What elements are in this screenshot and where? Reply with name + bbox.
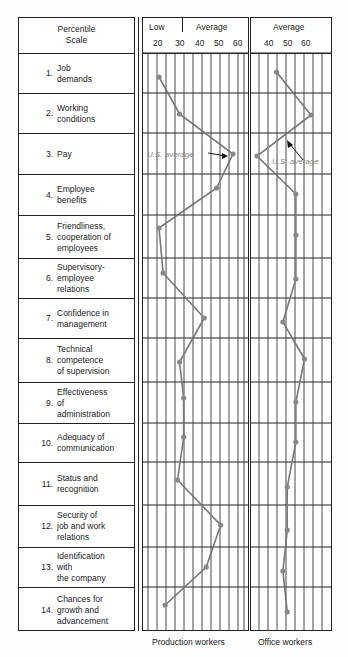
- profile-chart: [0, 0, 348, 657]
- us-average-label-production: U.S. average: [147, 150, 194, 159]
- us-average-label-office: U.S. average: [272, 157, 319, 166]
- production-workers-caption: Production workers: [152, 637, 225, 647]
- office-workers-caption: Office workers: [258, 637, 312, 647]
